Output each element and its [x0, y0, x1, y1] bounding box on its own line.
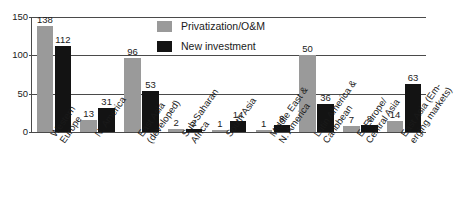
legend-item-new-investment: New investment: [157, 38, 265, 54]
bar-value-label: 53: [138, 80, 163, 90]
legend-label: Privatization/O&M: [181, 21, 265, 32]
legend-swatch-icon: [157, 21, 172, 32]
legend-swatch-icon: [157, 41, 172, 52]
legend: Privatization/O&MNew investment: [157, 18, 265, 58]
bar-value-label: 50: [295, 44, 320, 54]
bar-value-label: 138: [33, 15, 58, 25]
y-axis-tick-label-100: 100: [2, 50, 28, 60]
y-axis-tick-label-50: 50: [2, 89, 28, 99]
legend-item-privatization: Privatization/O&M: [157, 18, 265, 34]
bar-privatization-2: [124, 58, 141, 132]
y-axis: 150100500: [0, 0, 28, 221]
bar-value-label: 112: [51, 35, 76, 45]
y-axis-tick-label-0: 0: [2, 127, 28, 137]
legend-label: New investment: [181, 41, 256, 52]
bar-value-label: 96: [120, 47, 145, 57]
bar-value-label: 63: [401, 73, 426, 83]
y-axis-tick-label-150: 150: [2, 12, 28, 22]
x-axis-category-labels: WesternEuropeN. AmericaEast Asia(develop…: [31, 133, 425, 221]
